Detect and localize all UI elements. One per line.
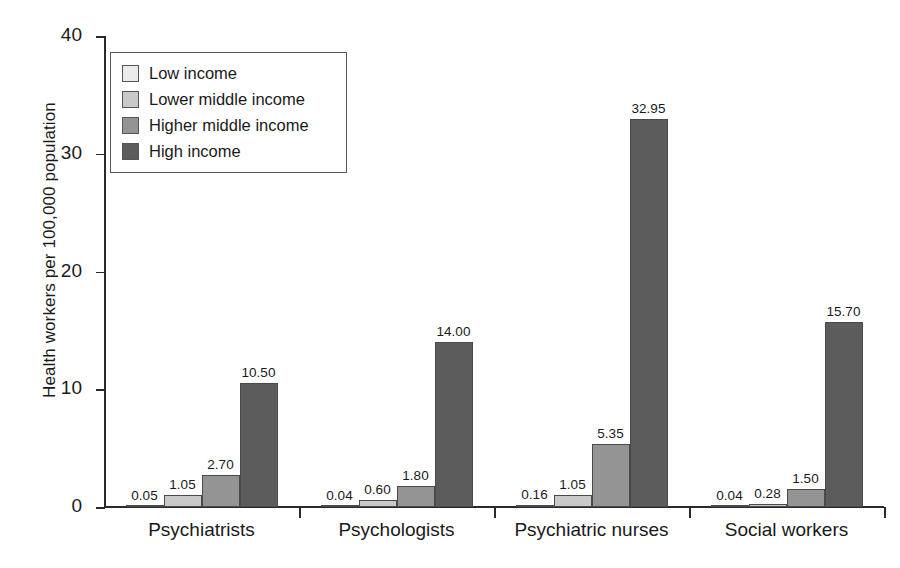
y-tick-label: 10 [0, 377, 82, 399]
legend-label: Higher middle income [149, 117, 309, 134]
x-category-label: Psychiatrists [148, 519, 255, 541]
legend-item-low-income[interactable]: Low income [122, 60, 346, 86]
bar-value-label: 1.05 [169, 477, 195, 492]
bar[interactable] [397, 486, 435, 507]
bar[interactable] [749, 504, 787, 507]
legend-item-lower-middle-income[interactable]: Lower middle income [122, 86, 346, 112]
bar-value-label: 14.00 [437, 324, 471, 339]
bar-value-label: 10.50 [242, 365, 276, 380]
legend-swatch-icon [122, 117, 139, 134]
bar-value-label: 5.35 [597, 426, 623, 441]
bar[interactable] [126, 505, 164, 507]
bar-value-label: 0.04 [326, 488, 352, 503]
bar-value-label: 2.70 [207, 457, 233, 472]
bar[interactable] [240, 383, 278, 507]
x-category-label: Psychiatric nurses [514, 519, 668, 541]
bar-value-label: 0.16 [521, 487, 547, 502]
y-tick-label: 30 [0, 142, 82, 164]
y-axis-title: Health workers per 100,000 population [40, 0, 60, 500]
y-tick-label: 40 [0, 24, 82, 46]
legend: Low incomeLower middle incomeHigher midd… [110, 52, 347, 173]
x-tick-mark [299, 507, 301, 518]
x-tick-mark [884, 507, 886, 518]
legend-swatch-icon [122, 143, 139, 160]
x-category-label: Social workers [725, 519, 849, 541]
bar-value-label: 0.60 [364, 482, 390, 497]
legend-swatch-icon [122, 91, 139, 108]
bar-group: 0.040.281.5015.70 [711, 36, 863, 507]
x-tick-mark [494, 507, 496, 518]
bar[interactable] [711, 505, 749, 507]
bar[interactable] [516, 505, 554, 507]
legend-label: High income [149, 143, 241, 160]
y-tick-mark [96, 507, 105, 509]
bar-value-label: 1.50 [792, 471, 818, 486]
bar-chart: Health workers per 100,000 population 01… [0, 0, 900, 568]
bar[interactable] [359, 500, 397, 507]
bar[interactable] [435, 342, 473, 507]
legend-swatch-icon [122, 65, 139, 82]
y-tick-label: 0 [0, 495, 82, 517]
legend-item-high-income[interactable]: High income [122, 138, 346, 164]
bar[interactable] [202, 475, 240, 507]
bar-group: 0.161.055.3532.95 [516, 36, 668, 507]
bar-value-label: 0.04 [716, 488, 742, 503]
bar-value-label: 0.05 [131, 488, 157, 503]
legend-item-higher-middle-income[interactable]: Higher middle income [122, 112, 346, 138]
x-tick-mark [689, 507, 691, 518]
bar[interactable] [164, 495, 202, 507]
bar-value-label: 1.80 [402, 468, 428, 483]
bar-value-label: 15.70 [827, 304, 861, 319]
y-tick-label: 20 [0, 260, 82, 282]
bar[interactable] [787, 489, 825, 507]
bar[interactable] [554, 495, 592, 507]
bar-value-label: 1.05 [559, 477, 585, 492]
bar-value-label: 0.28 [754, 486, 780, 501]
bar[interactable] [592, 444, 630, 507]
bar[interactable] [630, 119, 668, 507]
bar[interactable] [321, 505, 359, 507]
legend-label: Lower middle income [149, 91, 305, 108]
bar-value-label: 32.95 [632, 101, 666, 116]
legend-label: Low income [149, 65, 237, 82]
bar[interactable] [825, 322, 863, 507]
x-category-label: Psychologists [338, 519, 454, 541]
